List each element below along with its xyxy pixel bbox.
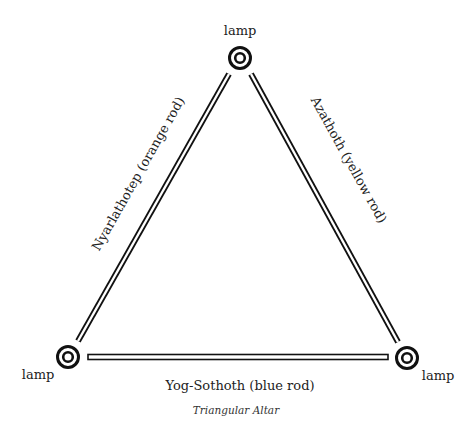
diagram-caption: Triangular Altar (193, 404, 280, 416)
lamp-right-label: lamp (422, 368, 455, 383)
lamp-left-label: lamp (22, 367, 55, 382)
rod-bottom-yog-sothoth (88, 355, 388, 360)
lamp-right (397, 348, 418, 369)
rod-right-label: Azathoth (yellow rod) (307, 93, 389, 225)
lamp-top (230, 48, 251, 69)
triangular-altar-diagram: lamp lamp lamp Nyarlathotep (orange rod)… (0, 0, 476, 439)
lamp-top-label: lamp (224, 23, 257, 38)
lamp-left (58, 347, 79, 368)
rod-left-nyarlathotep (78, 74, 229, 341)
rod-bottom-label: Yog-Sothoth (blue rod) (164, 378, 314, 393)
